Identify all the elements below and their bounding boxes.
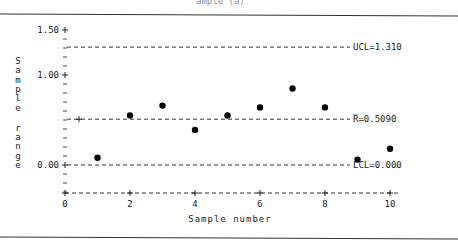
data-point <box>224 112 230 118</box>
reference-label-rbar: R̅=0.5090 <box>353 114 397 125</box>
x-tick-label: 10 <box>385 199 396 209</box>
x-tick-label: 2 <box>127 199 132 209</box>
y-tick-label: 1.00 <box>37 70 59 80</box>
control-limit-lines: UCL=1.310R̅=0.5090LCL=0.000 <box>67 42 402 170</box>
y-axis-label-char: e <box>15 160 20 170</box>
y-tick-label: 1.50 <box>37 25 59 35</box>
data-point <box>354 156 360 162</box>
y-tick-label: 0.00 <box>37 160 59 170</box>
data-point <box>127 112 133 118</box>
y-axis: 0.001.001.50 <box>37 25 68 192</box>
x-tick-label: 0 <box>62 199 67 209</box>
reference-label-lcl: LCL=0.000 <box>353 160 402 170</box>
data-point <box>94 155 100 161</box>
x-tick-label: 4 <box>192 199 197 209</box>
data-points <box>94 85 393 163</box>
top-rule <box>0 14 458 16</box>
x-tick-label: 8 <box>322 199 327 209</box>
data-point <box>387 146 393 152</box>
reference-label-ucl: UCL=1.310 <box>353 42 402 52</box>
x-axis-label: Sample number <box>188 214 271 224</box>
x-axis: 0246810 <box>62 190 400 209</box>
bottom-rule <box>0 237 458 239</box>
data-point <box>257 104 263 110</box>
data-point <box>192 127 198 133</box>
x-tick-label: 6 <box>257 199 262 209</box>
data-point <box>322 104 328 110</box>
y-axis-label-char: e <box>15 103 20 113</box>
data-point <box>289 85 295 91</box>
y-axis-label: Samplerange <box>15 56 21 170</box>
range-control-chart: Samplerange 0.001.001.50 0246810 UCL=1.3… <box>0 0 458 240</box>
data-point <box>159 102 165 108</box>
